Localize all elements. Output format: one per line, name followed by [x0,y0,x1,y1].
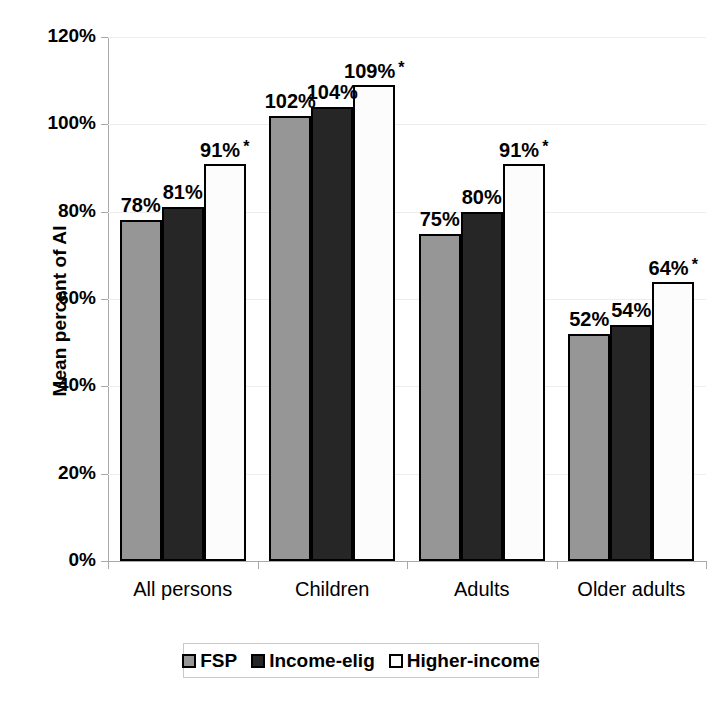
bar [610,325,652,561]
bar [652,282,694,561]
x-axis-tick-mark [258,561,259,569]
bar-value-text: 64% [649,257,689,279]
y-axis-tick-mark [101,124,108,125]
legend-label: Income-elig [269,651,375,670]
bar-value-text: 91% [499,139,539,161]
y-axis-tick-mark [101,37,108,38]
x-axis-tick-mark [706,561,707,569]
bar-value-label: 80% [449,187,515,207]
bar-value-label: 64%* [640,257,706,278]
bar-value-text: 91% [200,139,240,161]
x-axis-tick-mark [108,561,109,569]
y-axis-tick-label: 20% [0,462,96,484]
gridline [108,124,706,125]
legend-label: Higher-income [407,651,540,670]
x-axis-category-label: Adults [407,578,557,601]
legend-swatch-icon [389,654,403,668]
y-axis-tick-mark [101,299,108,300]
significance-marker: * [539,138,548,155]
y-axis-tick-mark [101,561,108,562]
y-axis-tick-mark [101,386,108,387]
bar-value-label: 54% [598,300,664,320]
y-axis-tick-label: 0% [0,549,96,571]
bar [461,212,503,561]
y-axis-tick-label: 100% [0,112,96,134]
legend-label: FSP [200,651,237,670]
bar [162,207,204,561]
x-axis-tick-mark [557,561,558,569]
legend-item[interactable]: Income-elig [251,651,375,670]
legend-item[interactable]: Higher-income [389,651,540,670]
x-axis-category-label: Older adults [557,578,707,601]
x-axis-category-label: Children [258,578,408,601]
bar [353,85,395,561]
bar-value-text: 54% [611,299,651,321]
bar-value-text: 80% [462,186,502,208]
legend: FSPIncome-eligHigher-income [183,643,539,678]
bar [120,220,162,561]
x-axis-tick-mark [407,561,408,569]
bar [311,107,353,561]
bar [568,334,610,561]
y-axis-tick-label: 80% [0,200,96,222]
bar-value-label: 81% [150,182,216,202]
bar-value-text: 104% [307,81,358,103]
legend-swatch-icon [251,654,265,668]
bar [204,164,246,561]
bar-value-label: 91%* [491,139,557,160]
y-axis-tick-label: 40% [0,374,96,396]
gridline [108,37,706,38]
x-axis-category-label: All persons [108,578,258,601]
bar-value-label: 91%* [192,139,258,160]
bar-value-text: 75% [420,208,460,230]
bar-chart: Mean percent of AI 0%20%40%60%80%100%120… [0,0,718,716]
y-axis-tick-label: 60% [0,287,96,309]
y-axis-tick-mark [101,474,108,475]
significance-marker: * [689,256,698,273]
bar [503,164,545,561]
bar [419,234,461,562]
bar-value-label: 75% [407,209,473,229]
bar [269,116,311,561]
y-axis-tick-label: 120% [0,25,96,47]
bar-value-text: 81% [163,181,203,203]
bar-value-label: 109%* [341,60,407,81]
legend-swatch-icon [182,654,196,668]
significance-marker: * [240,138,249,155]
bar-value-label: 104% [299,82,365,102]
legend-item[interactable]: FSP [182,651,237,670]
bar-value-text: 109% [344,60,395,82]
significance-marker: * [395,59,404,76]
